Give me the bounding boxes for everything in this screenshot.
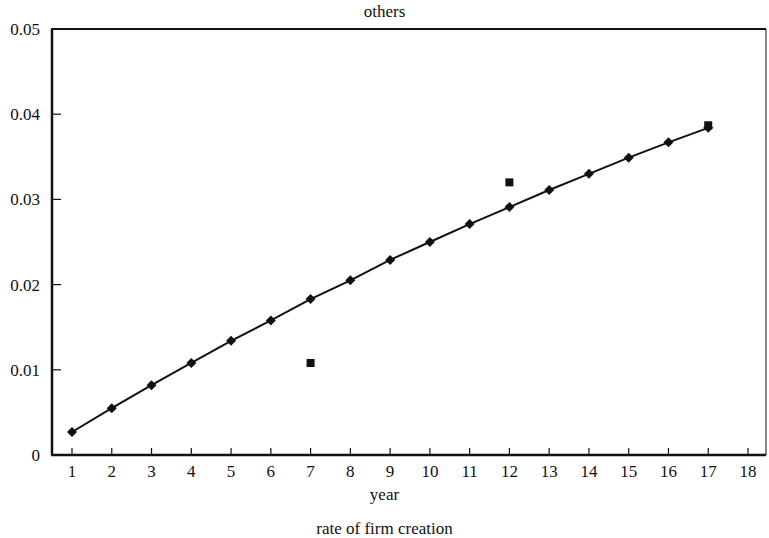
y-tick-label: 0.02 <box>10 276 40 295</box>
data-line <box>72 128 708 432</box>
x-tick-label: 9 <box>386 462 395 481</box>
x-tick-label: 14 <box>580 462 598 481</box>
x-tick-label: 13 <box>541 462 558 481</box>
diamond-marker <box>624 153 634 163</box>
y-tick-label: 0.05 <box>10 20 40 39</box>
diamond-marker <box>186 358 196 368</box>
diamond-marker <box>67 427 77 437</box>
chart-title: others <box>0 3 769 20</box>
x-tick-label: 12 <box>501 462 518 481</box>
x-tick-label: 11 <box>461 462 477 481</box>
x-tick-label: 2 <box>108 462 117 481</box>
diamond-marker <box>544 185 554 195</box>
x-axis-ticks: 123456789101112131415161718 <box>68 448 757 481</box>
diamond-marker <box>465 219 475 229</box>
x-tick-label: 15 <box>620 462 637 481</box>
diamond-marker <box>266 315 276 325</box>
x-tick-label: 17 <box>700 462 718 481</box>
diamond-marker <box>425 237 435 247</box>
diamond-marker <box>663 137 673 147</box>
x-tick-label: 4 <box>187 462 196 481</box>
x-tick-label: 16 <box>660 462 677 481</box>
x-tick-label: 18 <box>740 462 757 481</box>
plot-axes <box>51 29 766 455</box>
x-axis-label: year <box>0 486 769 503</box>
x-tick-label: 7 <box>306 462 315 481</box>
y-tick-label: 0.03 <box>10 190 40 209</box>
square-marker <box>505 178 513 186</box>
diamond-marker <box>226 336 236 346</box>
x-tick-label: 8 <box>346 462 355 481</box>
x-tick-label: 10 <box>421 462 438 481</box>
y-tick-label: 0.04 <box>10 105 40 124</box>
series-observed-markers <box>307 121 713 367</box>
x-tick-label: 3 <box>147 462 156 481</box>
series-simulated-markers <box>67 123 713 437</box>
diamond-marker <box>504 202 514 212</box>
x-tick-label: 1 <box>68 462 77 481</box>
square-marker <box>704 121 712 129</box>
chart-caption: rate of firm creation <box>0 520 769 537</box>
x-tick-label: 5 <box>227 462 236 481</box>
diamond-marker <box>306 294 316 304</box>
diamond-marker <box>385 255 395 265</box>
y-tick-label: 0.01 <box>10 361 40 380</box>
square-marker <box>307 359 315 367</box>
x-tick-label: 6 <box>267 462 276 481</box>
diamond-marker <box>345 275 355 285</box>
series-simulated-line <box>72 128 708 432</box>
diamond-marker <box>147 380 157 390</box>
diamond-marker <box>584 169 594 179</box>
diamond-marker <box>107 403 117 413</box>
y-axis-ticks: 00.010.020.030.040.05 <box>10 20 61 465</box>
y-tick-label: 0 <box>32 446 41 465</box>
